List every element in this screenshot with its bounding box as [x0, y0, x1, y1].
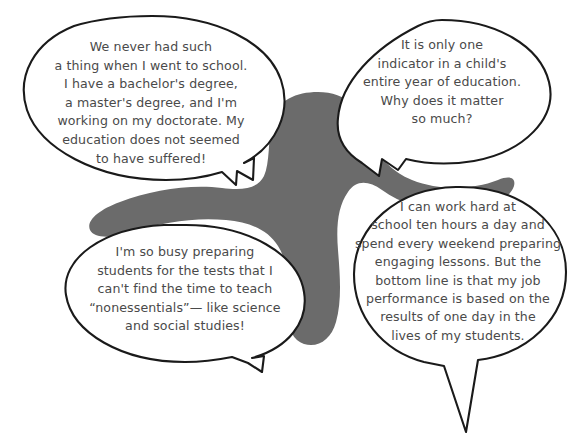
bubble-top-left-shape — [24, 16, 285, 185]
bubble-bottom-right-shape — [354, 187, 566, 432]
bubble-bottom-right — [354, 187, 566, 432]
bubble-bottom-left — [65, 225, 304, 372]
speech-bubble-illustration: We never had such a thing when I went to… — [0, 0, 586, 443]
bubble-bottom-left-shape — [65, 225, 304, 372]
bubble-top-right — [338, 20, 551, 176]
bubble-top-right-shape — [338, 20, 551, 176]
illustration-canvas — [0, 0, 586, 443]
bubble-top-left — [24, 16, 285, 185]
